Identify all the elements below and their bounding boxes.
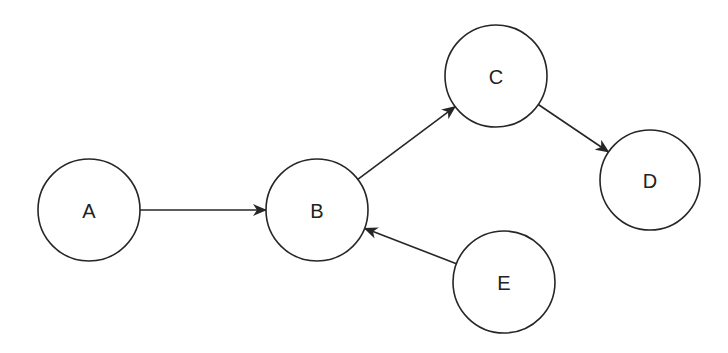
edge-e-to-b [365,228,457,263]
edge-b-to-c [358,107,455,180]
node-label: A [82,200,96,222]
node-label: E [497,272,510,294]
node-c: C [445,25,547,127]
node-a: A [38,159,140,261]
edges-layer [140,105,609,264]
node-label: D [643,170,657,192]
node-d: D [600,130,700,230]
node-b: B [266,159,368,261]
nodes-layer: ABCDE [38,25,700,333]
node-label: B [310,200,323,222]
node-e: E [453,231,555,333]
edge-c-to-d [538,105,608,153]
graph-canvas: ABCDE [0,0,728,353]
node-label: C [489,66,503,88]
